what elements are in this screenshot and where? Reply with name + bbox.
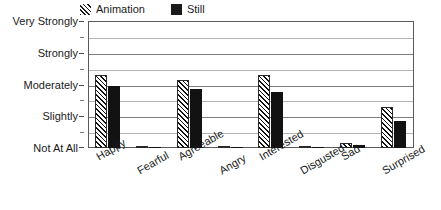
y-axis-tick-minor: [80, 100, 84, 101]
y-axis-tick-minor: [80, 132, 84, 133]
gridline-minor: [89, 38, 413, 39]
y-axis-label-slightly: Slightly: [43, 111, 78, 122]
y-axis-label-strongly: Strongly: [38, 47, 78, 58]
solid-swatch-icon: [171, 4, 182, 15]
legend-item-still: Still: [171, 4, 205, 15]
y-axis-label-not-at-all: Not At All: [33, 143, 78, 154]
y-axis-label-very-strongly: Very Strongly: [13, 16, 78, 27]
y-axis-tick-minor: [80, 37, 84, 38]
chart-legend: Animation Still: [80, 1, 205, 17]
x-axis-label-fearful: Fearful: [135, 149, 171, 177]
hatched-swatch-icon: [80, 4, 91, 15]
legend-label-still: Still: [187, 4, 205, 15]
x-axis: HappyFearfulAgreeableAngryInterestedDisg…: [88, 150, 414, 208]
y-axis-label-moderately: Moderately: [24, 79, 78, 90]
x-axis-label-angry: Angry: [217, 152, 248, 177]
gridline-major: [89, 86, 413, 87]
y-axis: Very Strongly Strongly Moderately Slight…: [0, 21, 84, 148]
y-axis-tick-major: [79, 147, 84, 148]
gridline-minor: [89, 101, 413, 102]
y-axis-tick-major: [79, 21, 84, 22]
gridline-major: [89, 117, 413, 118]
y-axis-tick-major: [79, 116, 84, 117]
legend-label-animation: Animation: [96, 4, 145, 15]
y-axis-tick-major: [79, 85, 84, 86]
gridline-major: [89, 54, 413, 55]
bar-chart: Animation Still Very Strongly Strongly M…: [0, 0, 441, 210]
plot-area: [88, 21, 414, 148]
y-axis-tick-major: [79, 53, 84, 54]
y-axis-tick-minor: [80, 69, 84, 70]
gridline-minor: [89, 70, 413, 71]
legend-item-animation: Animation: [80, 4, 145, 15]
gridline-minor: [89, 133, 413, 134]
